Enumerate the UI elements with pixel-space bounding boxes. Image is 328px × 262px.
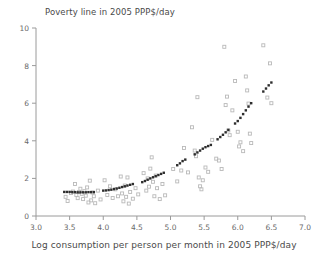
data-point-observed [88, 179, 91, 182]
data-point-fitted [155, 175, 157, 177]
x-tick-label: 4.0 [97, 223, 109, 232]
data-point-fitted [118, 187, 120, 189]
data-point-observed [220, 168, 223, 171]
data-point-fitted [184, 158, 186, 160]
data-point-observed [246, 89, 249, 92]
data-point-fitted [160, 173, 162, 175]
data-point-observed [270, 102, 273, 105]
data-point-fitted [179, 162, 181, 164]
x-tick-label: 5.0 [165, 223, 177, 232]
data-point-fitted [141, 181, 143, 183]
data-point-fitted [110, 188, 112, 190]
data-point-observed [129, 190, 132, 193]
data-point-observed [228, 134, 231, 137]
data-point-fitted [87, 191, 89, 193]
data-point-observed [247, 102, 250, 105]
data-point-fitted [126, 184, 128, 186]
data-point-fitted [93, 191, 95, 193]
data-point-fitted [210, 144, 212, 146]
data-point-observed [147, 185, 150, 188]
data-point-fitted [76, 191, 78, 193]
x-tick-label: 3.0 [30, 223, 42, 232]
data-point-observed [96, 189, 99, 192]
data-point-observed [176, 180, 179, 183]
data-point-fitted [82, 191, 84, 193]
data-point-fitted [247, 105, 249, 107]
data-point-fitted [68, 191, 70, 193]
data-point-fitted [245, 109, 247, 111]
data-point-observed [66, 199, 69, 202]
data-point-fitted [199, 149, 201, 151]
data-point-observed [156, 187, 159, 190]
data-point-fitted [124, 185, 126, 187]
data-point-observed [127, 202, 130, 205]
data-point-observed [119, 175, 122, 178]
data-point-observed [236, 130, 239, 133]
data-point-fitted [222, 134, 224, 136]
data-point-observed [90, 199, 93, 202]
data-point-observed [158, 198, 161, 201]
data-point-observed [172, 168, 175, 171]
y-axis: 0246810 [19, 24, 36, 221]
data-point-fitted [105, 189, 107, 191]
data-point-fitted [224, 131, 226, 133]
data-point-fitted [267, 84, 269, 86]
data-point-observed [238, 145, 241, 148]
y-tick-label: 2 [24, 174, 29, 183]
data-point-fitted [194, 153, 196, 155]
data-point-observed [262, 44, 265, 47]
data-point-fitted [132, 183, 134, 185]
data-point-observed [111, 196, 114, 199]
data-point-observed [207, 170, 210, 173]
data-point-observed [134, 187, 137, 190]
data-point-observed [103, 179, 106, 182]
data-point-observed [224, 104, 227, 107]
x-tick-label: 4.5 [131, 223, 143, 232]
data-point-fitted [157, 174, 159, 176]
x-tick-label: 3.5 [64, 223, 76, 232]
data-point-fitted [79, 191, 81, 193]
data-point-observed [121, 192, 124, 195]
data-point-observed [150, 156, 153, 159]
data-point-observed [126, 176, 129, 179]
series-fitted-curve [63, 81, 273, 193]
data-point-observed [269, 62, 272, 65]
data-point-observed [122, 200, 125, 203]
data-point-fitted [129, 184, 131, 186]
x-axis-label: Log consumption per person per month in … [0, 240, 328, 250]
data-point-observed [239, 141, 242, 144]
data-point-observed [201, 179, 204, 182]
data-point-observed [217, 159, 220, 162]
data-point-fitted [121, 186, 123, 188]
data-point-observed [86, 186, 89, 189]
data-point-observed [145, 189, 148, 192]
data-point-fitted [202, 147, 204, 149]
x-axis: 3.03.54.04.55.05.56.06.57.0 [30, 216, 311, 232]
data-point-fitted [63, 191, 65, 193]
data-point-fitted [262, 90, 264, 92]
data-point-observed [92, 195, 95, 198]
data-point-observed [182, 146, 185, 149]
data-point-observed [244, 75, 247, 78]
data-point-observed [193, 149, 196, 152]
data-point-observed [180, 169, 183, 172]
data-point-observed [211, 138, 214, 141]
data-point-fitted [176, 164, 178, 166]
data-point-fitted [144, 180, 146, 182]
data-point-fitted [116, 187, 118, 189]
x-tick-label: 7.0 [299, 223, 311, 232]
data-point-observed [131, 197, 134, 200]
y-axis-ticks: 0246810 [19, 24, 36, 221]
data-point-observed [266, 96, 269, 99]
data-point-fitted [270, 81, 272, 83]
data-point-observed [164, 194, 167, 197]
data-point-observed [234, 80, 237, 83]
data-point-observed [106, 193, 109, 196]
data-point-observed [196, 96, 199, 99]
data-point-observed [137, 193, 140, 196]
data-point-observed [142, 172, 145, 175]
data-point-fitted [237, 120, 239, 122]
data-point-fitted [90, 191, 92, 193]
chart-figure: Poverty line in 2005 PPP$/day 0246810 3.… [0, 0, 328, 262]
data-point-fitted [102, 189, 104, 191]
